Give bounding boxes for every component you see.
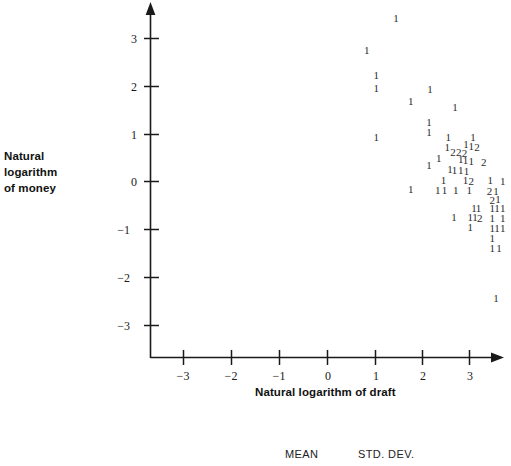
data-points-layer: 1111111111111112222111121111111211111112… [0,0,511,466]
data-point: 1 [372,83,380,94]
data-point: 1 [372,70,380,81]
data-point: 1 [425,127,433,138]
data-point: 1 [363,45,371,56]
data-point: 1 [440,185,448,196]
data-point: 1 [492,293,500,304]
data-point: 1 [495,243,503,254]
data-point: 1 [466,222,474,233]
data-point: 2 [473,142,481,153]
data-point: 1 [392,13,400,24]
footer-mean-label: MEAN [285,448,318,460]
data-point: 1 [451,102,459,113]
data-point: 1 [499,223,507,234]
footer-std-dev-label: STD. DEV. [358,448,414,460]
data-point: 1 [452,185,460,196]
data-point: 1 [465,185,473,196]
data-point: 1 [426,84,434,95]
data-point: 1 [450,212,458,223]
data-point: 1 [407,184,415,195]
data-point: 1 [425,160,433,171]
scatter-plot-figure: 3 2 1 0 −1 −2 −3 −3 −2 −1 0 1 2 3 Natura… [0,0,511,466]
data-point: 1 [499,176,507,187]
data-point: 1 [372,132,380,143]
data-point: 1 [407,96,415,107]
data-point: 1 [435,153,443,164]
data-point: 2 [480,157,488,168]
data-point: 2 [476,213,484,224]
